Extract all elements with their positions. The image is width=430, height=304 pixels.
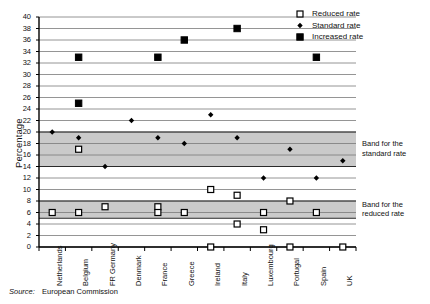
- band-annotation-standard: Band for thestandard rate: [362, 139, 406, 158]
- data-point-reduced-rate: [287, 198, 293, 204]
- y-tick-label: 18: [15, 140, 31, 148]
- chart-container: Percentage 02468101214161820222426283032…: [0, 0, 430, 304]
- y-tick-label: 8: [15, 197, 31, 205]
- data-point-increased-rate: [234, 25, 240, 31]
- y-tick-label: 14: [15, 163, 31, 171]
- x-tick-label-ireland: Ireland: [214, 263, 222, 286]
- data-point-standard-rate: [129, 118, 134, 123]
- data-point-reduced-rate: [155, 210, 161, 216]
- y-tick-label: 38: [15, 25, 31, 33]
- data-point-reduced-rate: [49, 210, 55, 216]
- y-tick-label: 16: [15, 151, 31, 159]
- x-tick-label-denmark: Denmark: [135, 256, 143, 286]
- y-tick-label: 6: [15, 209, 31, 217]
- y-tick-label: 30: [15, 71, 31, 79]
- data-point-reduced-rate: [287, 244, 293, 250]
- x-tick-label-spain: Spain: [320, 267, 328, 286]
- data-point-standard-rate: [208, 112, 213, 117]
- data-point-increased-rate: [75, 100, 81, 106]
- band-annotation-reduced: Band for thereduced rate: [362, 200, 404, 219]
- y-tick-label: 2: [15, 232, 31, 240]
- data-point-reduced-rate: [76, 210, 82, 216]
- data-point-standard-rate: [314, 175, 319, 180]
- data-point-reduced-rate: [234, 192, 240, 198]
- legend-marker-reduced-rate: [297, 11, 303, 17]
- band-standard: [39, 132, 356, 167]
- source-value: European Commission: [42, 287, 118, 296]
- data-point-increased-rate: [155, 54, 161, 60]
- data-point-reduced-rate: [261, 227, 267, 233]
- y-tick-label: 26: [15, 94, 31, 102]
- data-point-reduced-rate: [76, 146, 82, 152]
- data-point-standard-rate: [261, 175, 266, 180]
- band-reduced: [39, 201, 356, 218]
- source-label: Source:: [9, 287, 35, 296]
- data-point-reduced-rate: [234, 221, 240, 227]
- y-tick-label: 4: [15, 220, 31, 228]
- x-tick-label-portugal: Portugal: [293, 258, 301, 286]
- data-point-reduced-rate: [208, 187, 214, 193]
- legend-label-increased-rate: Increased rate: [312, 32, 363, 41]
- band-annotation-line1: Band for the: [362, 139, 406, 149]
- data-point-increased-rate: [75, 54, 81, 60]
- y-tick-label: 22: [15, 117, 31, 125]
- x-tick-label-greece: Greece: [188, 261, 196, 286]
- legend-label-standard-rate: Standard rate: [312, 21, 360, 30]
- legend-label-reduced-rate: Reduced rate: [312, 9, 360, 18]
- x-tick-label-luxembourg: Luxembourg: [267, 244, 275, 286]
- x-tick-label-fr-germany: FR Germany: [109, 243, 117, 286]
- data-point-reduced-rate: [208, 244, 214, 250]
- data-point-increased-rate: [313, 54, 319, 60]
- y-tick-label: 12: [15, 174, 31, 182]
- x-tick-label-netherlands: Netherlands: [56, 246, 64, 286]
- y-tick-label: 36: [15, 36, 31, 44]
- y-tick-label: 32: [15, 59, 31, 67]
- data-point-reduced-rate: [261, 210, 267, 216]
- data-point-reduced-rate: [181, 210, 187, 216]
- y-tick-label: 0: [15, 243, 31, 251]
- data-point-increased-rate: [181, 37, 187, 43]
- band-annotation-line2: reduced rate: [362, 209, 404, 219]
- band-annotation-line1: Band for the: [362, 200, 404, 210]
- y-tick-label: 10: [15, 186, 31, 194]
- data-point-reduced-rate: [313, 210, 319, 216]
- x-tick-label-italy: Italy: [241, 272, 249, 286]
- legend-marker-increased-rate: [297, 34, 303, 40]
- y-tick-label: 34: [15, 48, 31, 56]
- y-tick-label: 24: [15, 105, 31, 113]
- x-tick-label-belgium: Belgium: [82, 259, 90, 286]
- x-tick-label-uk: UK: [346, 276, 354, 286]
- legend-marker-standard-rate: [297, 23, 302, 28]
- y-tick-label: 40: [15, 13, 31, 21]
- data-point-reduced-rate: [102, 204, 108, 210]
- data-point-reduced-rate: [340, 244, 346, 250]
- y-tick-label: 28: [15, 82, 31, 90]
- data-point-reduced-rate: [155, 204, 161, 210]
- y-tick-label: 20: [15, 128, 31, 136]
- x-tick-label-france: France: [161, 263, 169, 286]
- band-annotation-line2: standard rate: [362, 149, 406, 159]
